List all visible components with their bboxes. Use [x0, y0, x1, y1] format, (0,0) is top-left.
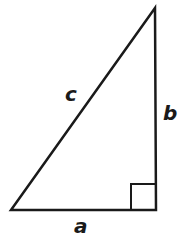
right-triangle-figure — [0, 0, 185, 250]
hypotenuse-label: c — [65, 84, 77, 104]
right-angle-marker — [131, 184, 156, 210]
vertical-leg-label: b — [163, 103, 177, 123]
horizontal-leg-label: a — [74, 216, 88, 236]
triangle — [11, 8, 156, 210]
